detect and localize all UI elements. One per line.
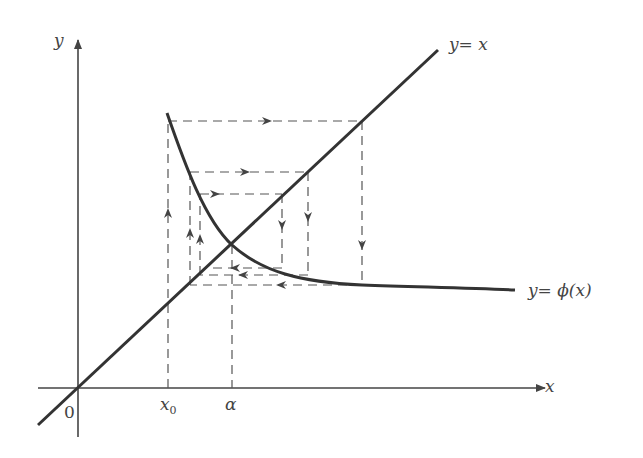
alpha-label: α — [225, 396, 236, 413]
phi-curve-label: y= ϕ(x) — [528, 282, 592, 299]
x0-label-sub: 0 — [170, 404, 177, 417]
identity-line-label: y= x — [449, 36, 488, 53]
x0-label-main: x — [160, 394, 170, 414]
y-axis-label: y — [54, 32, 64, 49]
origin-label: 0 — [64, 404, 75, 421]
x0-label: x0 — [160, 396, 177, 416]
x-axis-label: x — [545, 378, 555, 395]
cobweb-path — [168, 120, 362, 388]
cobweb-arrows — [164, 117, 366, 289]
identity-line — [38, 50, 438, 425]
